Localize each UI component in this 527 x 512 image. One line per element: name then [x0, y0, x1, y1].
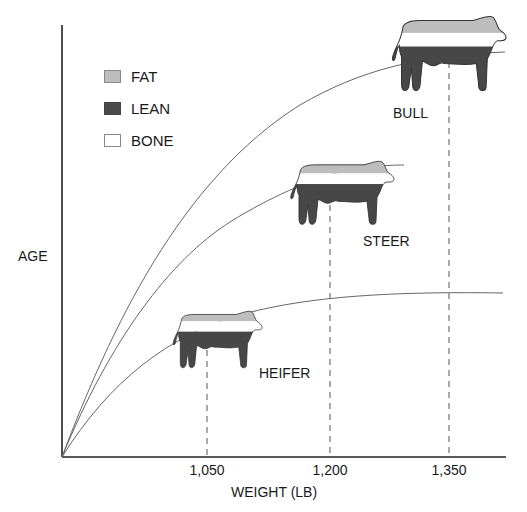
steer-growth-curve [62, 165, 404, 457]
legend-item-lean: LEAN [104, 100, 170, 116]
bull-label: BULL [393, 105, 428, 121]
bull-cow-icon [385, 10, 517, 103]
steer-label: STEER [363, 233, 410, 249]
legend-item-fat: FAT [104, 68, 157, 84]
x-tick-1200: 1,200 [312, 462, 347, 478]
legend-label-lean: LEAN [131, 100, 170, 117]
legend-item-bone: BONE [104, 132, 174, 148]
heifer-label: HEIFER [259, 365, 310, 381]
y-axis-label: AGE [18, 248, 48, 264]
legend-label-bone: BONE [131, 132, 174, 149]
steer-cow-icon [284, 156, 404, 232]
fat-swatch-icon [104, 70, 121, 83]
heifer-cow-icon [167, 307, 270, 375]
x-axis-label: WEIGHT (LB) [231, 484, 317, 500]
growth-curve-diagram [0, 0, 527, 512]
bone-swatch-icon [104, 134, 121, 147]
legend-label-fat: FAT [131, 68, 157, 85]
lean-swatch-icon [104, 102, 121, 115]
x-tick-1350: 1,350 [431, 462, 466, 478]
x-tick-1050: 1,050 [189, 462, 224, 478]
